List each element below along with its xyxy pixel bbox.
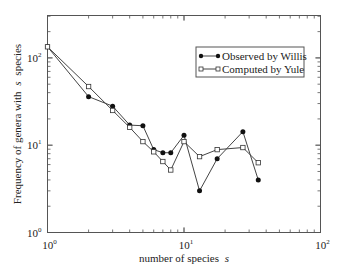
legend-label: Observed by Willis — [222, 50, 307, 62]
x-tick-label: 100 — [42, 238, 57, 251]
filled-circle-marker-icon — [240, 129, 245, 134]
tick-labels: 100101102100101102 — [27, 51, 330, 251]
filled-circle-marker-icon — [216, 54, 220, 58]
open-square-marker-icon — [216, 67, 220, 71]
y-tick-label: 100 — [27, 226, 42, 239]
filled-circle-marker-icon — [160, 150, 165, 155]
open-square-marker-icon — [241, 145, 245, 149]
open-square-marker-icon — [127, 125, 131, 129]
open-square-marker-icon — [45, 45, 49, 49]
open-square-marker-icon — [161, 159, 165, 163]
open-square-marker-icon — [182, 139, 186, 143]
open-square-marker-icon — [256, 161, 260, 165]
legend-label: Computed by Yule — [222, 63, 304, 75]
x-axis-title: number of species s — [139, 252, 229, 264]
open-square-marker-icon — [86, 84, 90, 88]
filled-circle-marker-icon — [215, 156, 220, 161]
open-square-marker-icon — [197, 154, 201, 158]
open-square-marker-icon — [141, 139, 145, 143]
chart: 100101102100101102 number of species s F… — [0, 0, 341, 273]
filled-circle-marker-icon — [140, 123, 145, 128]
y-tick-label: 102 — [27, 51, 42, 64]
x-tick-label: 101 — [179, 238, 194, 251]
filled-circle-marker-icon — [168, 150, 173, 155]
y-axis-title: Frequency of genera with s species — [11, 44, 23, 204]
filled-circle-marker-icon — [182, 133, 187, 138]
filled-circle-marker-icon — [197, 188, 202, 193]
open-square-marker-icon — [199, 67, 203, 71]
x-tick-label: 102 — [315, 238, 330, 251]
filled-circle-marker-icon — [86, 94, 91, 99]
filled-circle-marker-icon — [256, 177, 261, 182]
open-square-marker-icon — [215, 147, 219, 151]
open-square-marker-icon — [152, 150, 156, 154]
open-square-marker-icon — [110, 108, 114, 112]
legend: Observed by Willis Computed by Yule — [196, 47, 307, 77]
filled-circle-marker-icon — [199, 54, 203, 58]
y-tick-label: 101 — [27, 138, 42, 151]
open-square-marker-icon — [169, 168, 173, 172]
